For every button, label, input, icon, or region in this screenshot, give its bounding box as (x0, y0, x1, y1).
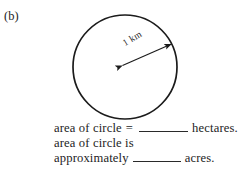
answer-line-approx-intro: area of circle is (54, 136, 240, 151)
blank-acres[interactable] (133, 151, 181, 162)
answer-line-hectares-prefix: area of circle (54, 121, 122, 136)
answer-line-hectares-unit: hectares. (192, 121, 238, 136)
blank-hectares[interactable] (139, 121, 188, 132)
answer-block: area of circle=hectares. area of circle … (54, 121, 240, 167)
answer-line-acres-prefix: approximately (54, 151, 129, 166)
answer-line-approx-intro-text: area of circle is (54, 136, 134, 151)
circle-outline (73, 15, 177, 119)
figure-container: (b) 1 km area of circle=hectares. area o… (0, 0, 240, 190)
equals-sign: = (122, 121, 135, 136)
answer-line-hectares: area of circle=hectares. (54, 121, 240, 136)
radius-arrow (123, 44, 172, 66)
answer-line-acres-unit: acres. (185, 151, 215, 166)
answer-line-acres: approximatelyacres. (54, 151, 240, 166)
circle-diagram (0, 0, 240, 132)
